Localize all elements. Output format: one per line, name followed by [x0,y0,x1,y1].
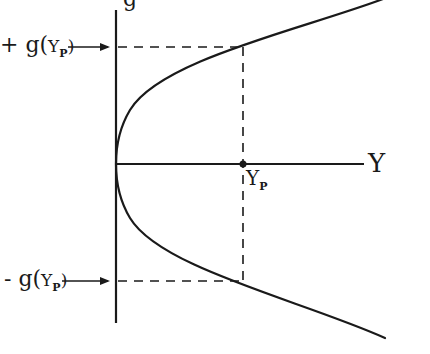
lower-var: Y [41,270,52,290]
upper-close: ) [68,36,75,56]
lower-func: g( [18,266,41,291]
horizontal-axis-label: Y [368,150,385,176]
lower-arrow-head [100,277,110,285]
lower-subscript: P [52,281,60,294]
point-yp-label: YP [246,168,267,192]
point-yp-subscript: P [259,180,267,193]
point-yp-main: Y [246,166,259,190]
lower-sign: - [4,266,11,291]
upper-g-label: + g(YP) [0,34,74,59]
lower-close: ) [61,270,68,290]
upper-var: Y [48,36,59,56]
upper-sign: + [0,32,18,57]
lower-g-label: - g(YP) [4,268,67,293]
upper-arrow-head [100,43,110,51]
vertical-axis-label: g [123,0,137,10]
upper-subscript: P [59,47,67,60]
upper-func: g( [25,32,48,57]
